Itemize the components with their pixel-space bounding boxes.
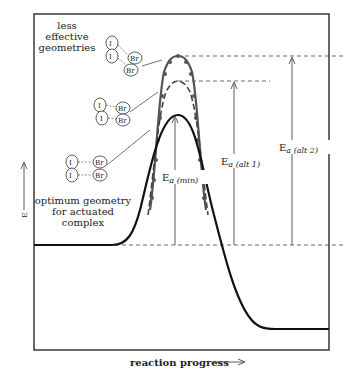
svg-text:I: I bbox=[98, 102, 101, 110]
svg-text:effective: effective bbox=[45, 31, 88, 42]
x-axis-label: reaction progress bbox=[130, 357, 245, 368]
svg-text:Br: Br bbox=[118, 117, 127, 125]
molecule-min-icon: I I Br Br bbox=[66, 130, 150, 182]
ea-alt2-label: Ea (alt 2) bbox=[278, 140, 334, 155]
optimum-geometry-label: optimum geometry for actuated complex bbox=[35, 195, 132, 228]
svg-text:Br: Br bbox=[126, 67, 135, 75]
svg-text:I: I bbox=[69, 159, 72, 167]
energy-diagram: E reaction progress Ea (min) bbox=[0, 0, 364, 381]
svg-text:I: I bbox=[100, 115, 103, 123]
svg-text:Br: Br bbox=[118, 105, 127, 113]
svg-text:E: E bbox=[20, 212, 29, 218]
svg-text:for actuated: for actuated bbox=[52, 206, 115, 217]
less-effective-label: less effective geometries bbox=[39, 20, 96, 53]
svg-text:optimum geometry: optimum geometry bbox=[35, 195, 132, 206]
svg-text:geometries: geometries bbox=[39, 42, 96, 53]
y-axis-label: E bbox=[20, 162, 29, 218]
svg-text:reaction progress: reaction progress bbox=[130, 357, 229, 368]
svg-text:Br: Br bbox=[130, 55, 139, 63]
molecule-alt1-icon: I I Br Br bbox=[94, 92, 158, 126]
svg-text:Br: Br bbox=[95, 172, 104, 180]
svg-text:less: less bbox=[57, 20, 76, 31]
ea-alt1-label: Ea (alt 1) bbox=[220, 154, 272, 169]
ea-min-label: Ea (min) bbox=[160, 170, 208, 185]
svg-text:I: I bbox=[69, 172, 72, 180]
svg-text:I: I bbox=[109, 53, 112, 61]
svg-text:I: I bbox=[109, 40, 112, 48]
molecule-alt2-icon: I I Br Br bbox=[106, 36, 162, 76]
svg-text:complex: complex bbox=[62, 217, 105, 228]
svg-text:Br: Br bbox=[95, 159, 104, 167]
